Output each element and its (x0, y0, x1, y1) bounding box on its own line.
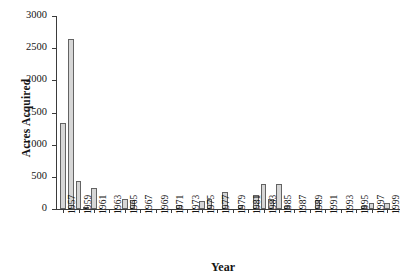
x-tick-label: 1995 (360, 195, 370, 214)
x-tick (187, 210, 188, 213)
y-axis-line (56, 16, 57, 210)
x-tick-label: 1957 (67, 195, 77, 214)
y-tick-label: 500 (31, 170, 47, 181)
x-tick-label: 1979 (237, 195, 247, 214)
x-tick (125, 210, 126, 213)
x-tick (310, 210, 311, 213)
x-tick-label: 1981 (252, 195, 262, 214)
x-tick (217, 210, 218, 213)
y-tick: 1000 (52, 145, 56, 146)
x-tick-label: 1961 (98, 195, 108, 214)
x-tick (63, 210, 64, 213)
y-tick-label: 0 (42, 202, 47, 213)
bar (68, 39, 74, 209)
y-axis-title: Acres Acquired (20, 38, 32, 198)
y-tick: 0 (52, 209, 56, 210)
x-tick (202, 210, 203, 213)
x-tick-label: 1967 (144, 195, 154, 214)
x-tick (109, 210, 110, 213)
x-tick (248, 210, 249, 213)
x-tick (372, 210, 373, 213)
x-tick-label: 1977 (221, 195, 231, 214)
figure: Acres Acquired 050010001500200025003000 … (0, 0, 408, 279)
plot-area: 050010001500200025003000 195719591961196… (56, 16, 400, 210)
x-tick-label: 1963 (113, 195, 123, 214)
x-tick (79, 210, 80, 213)
y-tick: 2500 (52, 48, 56, 49)
y-tick: 1500 (52, 113, 56, 114)
x-tick-label: 1959 (83, 195, 93, 214)
x-tick (140, 210, 141, 213)
x-axis-title-text: Year (173, 260, 235, 274)
y-tick-label: 2500 (26, 41, 47, 52)
x-tick-label: 1999 (391, 195, 401, 214)
x-tick-label: 1975 (206, 195, 216, 214)
x-tick-label: 1969 (160, 195, 170, 214)
x-tick-label: 1973 (191, 195, 201, 214)
x-tick-label: 1971 (175, 195, 185, 214)
y-tick-label: 1500 (26, 106, 47, 117)
x-tick (325, 210, 326, 213)
x-tick-label: 1983 (268, 195, 278, 214)
x-tick (264, 210, 265, 213)
x-tick-label: 1997 (376, 195, 386, 214)
bar (60, 123, 66, 209)
x-tick-label: 1985 (283, 195, 293, 214)
x-tick (279, 210, 280, 213)
x-tick-label: 1987 (298, 195, 308, 214)
x-axis-title: Year (0, 260, 408, 275)
x-tick (171, 210, 172, 213)
x-tick (233, 210, 234, 213)
x-tick-label: 1991 (329, 195, 339, 214)
x-tick (356, 210, 357, 213)
y-tick-label: 2000 (26, 73, 47, 84)
x-tick-label: 1993 (345, 195, 355, 214)
y-tick-label: 1000 (26, 138, 47, 149)
x-tick-label: 1989 (314, 195, 324, 214)
x-tick (156, 210, 157, 213)
y-tick: 500 (52, 177, 56, 178)
y-tick-label: 3000 (26, 9, 47, 20)
x-tick-label: 1965 (129, 195, 139, 214)
x-tick (294, 210, 295, 213)
x-tick (341, 210, 342, 213)
y-tick: 3000 (52, 16, 56, 17)
y-tick: 2000 (52, 80, 56, 81)
x-tick (387, 210, 388, 213)
x-tick (94, 210, 95, 213)
